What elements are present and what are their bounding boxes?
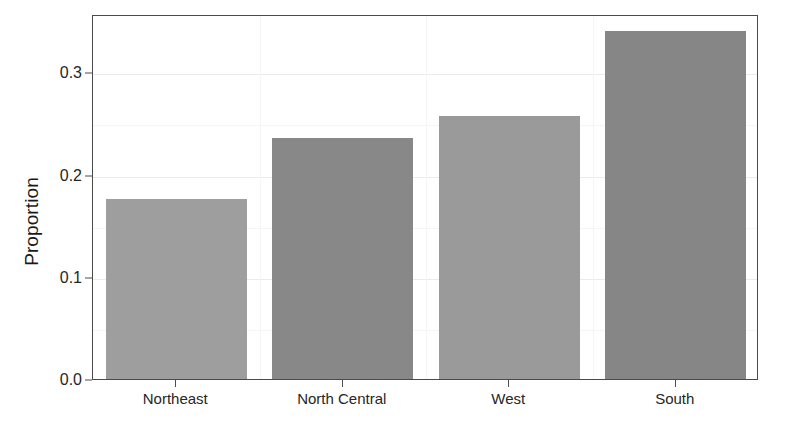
x-tick-mark-south	[675, 380, 676, 387]
x-tick-label-west: West	[491, 390, 525, 407]
bar-north-central	[272, 138, 413, 379]
y-tick-label-0.2: 0.2	[38, 167, 82, 185]
y-tick-label-0.3: 0.3	[38, 64, 82, 82]
bar-south	[605, 31, 746, 379]
x-tick-label-south: South	[655, 390, 694, 407]
x-tick-mark-west	[508, 380, 509, 387]
x-tick-mark-northeast	[175, 380, 176, 387]
plot-panel	[92, 15, 758, 380]
y-tick-mark-0.2	[85, 175, 92, 176]
bar-chart: Proportion 0.00.10.20.3 NortheastNorth C…	[0, 0, 796, 443]
y-tick-mark-0.0	[85, 380, 92, 381]
gridline-vertical-1	[260, 16, 261, 379]
y-tick-label-0.1: 0.1	[38, 269, 82, 287]
y-tick-mark-0.3	[85, 73, 92, 74]
gridline-vertical-3	[593, 16, 594, 379]
y-tick-label-0.0: 0.0	[38, 371, 82, 389]
y-tick-mark-0.1	[85, 277, 92, 278]
x-axis-tick-marks	[92, 380, 758, 388]
gridline-vertical-2	[426, 16, 427, 379]
x-tick-label-north-central: North Central	[297, 390, 386, 407]
bar-northeast	[106, 199, 247, 379]
y-axis-tick-labels: 0.00.10.20.3	[30, 0, 82, 443]
x-axis-tick-labels: NortheastNorth CentralWestSouth	[92, 390, 758, 416]
x-tick-label-northeast: Northeast	[143, 390, 208, 407]
bar-west	[439, 116, 580, 379]
x-tick-mark-north-central	[342, 380, 343, 387]
